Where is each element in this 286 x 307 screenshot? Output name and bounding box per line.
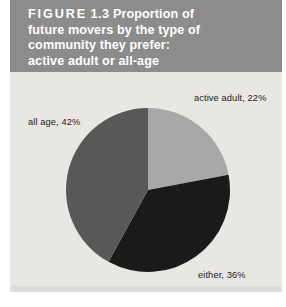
pie-chart: active adult, 22% all age, 42% either, 3…: [10, 72, 282, 286]
figure-number: 1.3: [91, 7, 110, 21]
figure-caption-line-3: community they prefer:: [28, 38, 170, 52]
figure-panel-bottom-edge: [10, 286, 282, 292]
figure-caption-line-4: active adult or all-age: [28, 54, 159, 68]
pie-label-active-adult: active adult, 22%: [194, 93, 267, 103]
pie-label-either: either, 36%: [198, 270, 246, 280]
figure-caption-line-2: future movers by the type of: [28, 23, 200, 37]
figure-caption-line-1: Proportion of: [113, 7, 194, 21]
figure-title-band: FIGURE 1.3 Proportion offuture movers by…: [10, 0, 282, 72]
figure-label-word: FIGURE: [28, 7, 87, 21]
pie-chart-svg: [10, 72, 282, 286]
pie-slices: [66, 108, 230, 272]
pie-label-all-age: all age, 42%: [28, 117, 80, 127]
figure-title: FIGURE 1.3 Proportion offuture movers by…: [28, 7, 270, 69]
figure-container: FIGURE 1.3 Proportion offuture movers by…: [0, 0, 286, 307]
